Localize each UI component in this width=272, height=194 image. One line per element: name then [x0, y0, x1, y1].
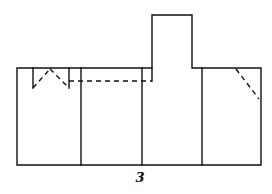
outline — [17, 15, 261, 165]
figure-label: 3 — [130, 170, 150, 185]
notch-fold-right — [50, 69, 69, 88]
notch-fold-left — [33, 69, 50, 88]
pattern-diagram — [0, 0, 272, 194]
corner-fold-line — [236, 69, 259, 99]
